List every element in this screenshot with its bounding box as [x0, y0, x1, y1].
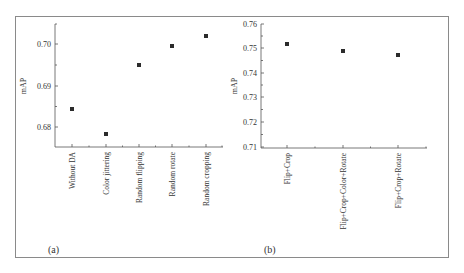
x-ticks-a	[72, 144, 222, 147]
y-tick-label: 0.73	[243, 93, 257, 102]
data-point	[104, 132, 108, 136]
y-tick-label: 0.69	[37, 82, 51, 91]
panel-label-b: (b)	[264, 244, 276, 256]
x-category-label: Random flipping	[135, 152, 144, 203]
y-tick-label: 0.71	[243, 143, 257, 152]
y-tick-label: 0.74	[243, 69, 257, 78]
y-tick-label: 0.68	[37, 123, 51, 132]
y-tick-label: 0.70	[37, 40, 51, 49]
y-tick-label: 0.75	[243, 44, 257, 53]
x-ticks-b	[287, 145, 426, 148]
y-axis-title-b: mAP	[230, 77, 239, 94]
data-point	[170, 44, 174, 48]
y-ticks-a	[55, 24, 58, 127]
y-tick-label: 0.72	[243, 118, 257, 127]
data-point	[341, 49, 345, 53]
panel-b: 0.71 0.72 0.73 0.74 0.75 0.76 mAP Flip+C…	[230, 20, 427, 256]
y-axis-title-a: mAP	[19, 77, 28, 94]
data-point	[137, 63, 141, 67]
x-category-label: Flip+Crop	[283, 153, 292, 185]
y-tick-label: 0.76	[243, 20, 257, 29]
x-category-label: Without DA	[68, 151, 77, 189]
panel-label-a: (a)	[48, 244, 59, 256]
y-ticks-b	[261, 24, 264, 147]
data-points-a	[70, 34, 208, 136]
panel-a: 0.68 0.69 0.70 mAP Without DA Color jitt…	[19, 24, 223, 256]
x-category-label: Flip+Crop+Color+Rotate	[339, 152, 348, 229]
x-category-label: Color jittering	[102, 152, 111, 195]
x-category-label: Random cropping	[202, 152, 211, 206]
figure-canvas: 0.68 0.69 0.70 mAP Without DA Color jitt…	[0, 0, 464, 273]
data-point	[396, 53, 400, 57]
x-category-label: Random rotate	[168, 151, 177, 196]
data-point	[204, 34, 208, 38]
data-point	[285, 42, 289, 46]
data-points-b	[285, 42, 400, 57]
x-category-label: Flip+Crop+Rotate	[394, 152, 403, 208]
data-point	[70, 107, 74, 111]
